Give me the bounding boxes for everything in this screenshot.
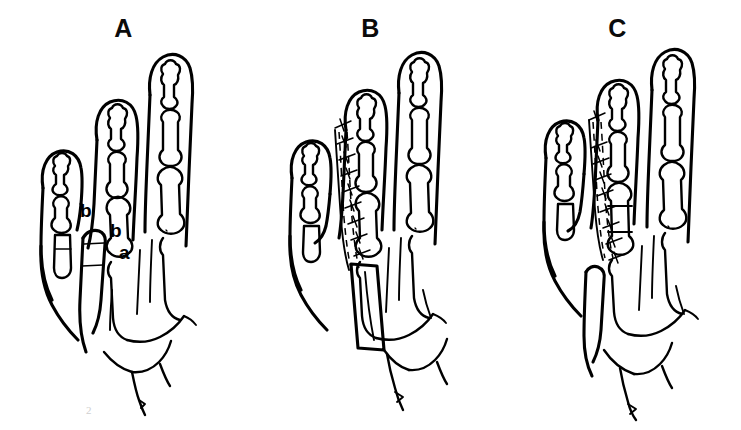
middle-proximal-phalanx [158,167,185,234]
index-middle-phalanx [355,142,376,192]
soft-tissue-line-3 [423,290,431,318]
flap-outline [586,266,604,362]
index-distal-phalanx [108,104,127,151]
middle-distal-phalanx [161,60,180,109]
palm-contour-1 [376,314,433,340]
wrist-crease [395,392,403,402]
short-finger-outline-lateral [545,121,585,174]
index-middle-phalanx [106,152,127,198]
middle-finger-outline-medial [394,93,399,230]
middle-middle-phalanx [159,110,181,166]
soft-tissue-line-1 [137,250,140,314]
short-distal-phalanx [556,123,574,163]
hand-edge-lower [685,310,698,319]
middle-middle-phalanx [661,105,683,161]
figure-root: A [0,0,741,430]
graft-mark-a-line [82,265,103,266]
hand-edge-lower [184,316,196,325]
palm-contour-1 [127,316,184,342]
short-distal-phalanx [302,143,320,185]
graft-column-outline [83,230,105,333]
wrist-base-right [437,362,447,384]
wrist-contour [409,339,447,370]
panel-b: B [247,0,494,430]
panel-c: C [494,0,741,430]
panel-a-drawing: b b a [0,0,247,430]
middle-proximal-phalanx [660,162,687,229]
panel-c-drawing [494,0,741,430]
index-distal-phalanx [609,84,628,131]
wrist-base-right [662,366,672,388]
soft-tissue-dot [415,228,416,229]
middle-finger-outline-medial [647,90,652,227]
middle-distal-phalanx [663,55,682,104]
short-middle-phalanx [300,187,319,224]
middle-proximal-phalanx [407,165,434,232]
palm-contour-2 [104,352,132,372]
short-proximal-phalanx [54,235,71,278]
hand-edge-lower [433,314,446,323]
measure-label-b-upper: b [80,200,92,221]
short-middle-phalanx [51,197,70,234]
soft-tissue-dot [668,226,669,227]
index-proximal-phalanx-lengthened [608,183,634,255]
index-metacarpal [609,260,628,334]
palm-contour-1 [628,310,685,336]
graft-mark-b-line [84,243,104,244]
index-metacarpal [357,262,376,338]
wrist-contour [132,341,171,372]
soft-tissue-line-3 [676,286,684,314]
thumb-border [41,246,78,340]
measure-label-a: a [119,242,130,263]
short-proximal-phalanx [303,226,320,262]
middle-finger-outline-medial [145,95,150,232]
middle-middle-phalanx [408,108,430,164]
soft-tissue-line-2 [150,240,152,302]
short-finger-outline-lateral-lower [315,194,330,243]
wrist-base-right [160,364,170,386]
middle-distal-phalanx [410,58,429,107]
middle-metacarpal [160,238,180,320]
wrist-base-left [132,372,145,415]
flap-outline-medial [584,272,592,376]
graft-column-outline-medial [80,238,86,352]
soft-tissue-line-2 [652,236,654,298]
soft-tissue-dot [166,230,167,231]
measure-label-b-lower: b [110,220,122,241]
middle-finger-outline [399,52,442,244]
panel-a: A [0,0,247,430]
soft-tissue-line-1 [639,246,642,310]
short-distal-phalanx [53,153,71,195]
palm-contour-2 [604,350,634,374]
thumb-border [544,222,581,316]
scan-artifact-mark: 2 [86,404,92,416]
soft-tissue-line-1 [386,248,389,312]
panel-b-drawing [247,0,494,430]
soft-tissue-line-2 [399,238,401,300]
middle-finger-outline [652,49,695,242]
thumb-border [290,236,327,330]
index-distal-phalanx [357,94,376,141]
short-proximal-phalanx [557,204,574,240]
bone-graft-rectangle [351,264,384,350]
wrist-contour [634,343,672,374]
short-middle-phalanx [554,165,573,202]
middle-finger-outline [150,54,193,246]
